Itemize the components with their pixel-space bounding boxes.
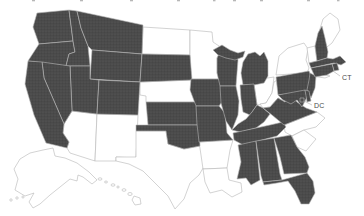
text-fragment (80, 0, 83, 1)
state-NM[interactable] (95, 114, 138, 161)
state-NE[interactable] (140, 80, 197, 102)
state-DC[interactable] (300, 98, 304, 102)
cropped-text-fragments (32, 0, 340, 1)
hi-island[interactable] (98, 178, 102, 180)
state-AR[interactable] (199, 140, 233, 169)
state-AZ[interactable] (63, 111, 97, 161)
text-fragment (130, 0, 133, 1)
state-MS[interactable] (237, 141, 260, 185)
hi-island[interactable] (105, 181, 108, 183)
text-fragment (307, 0, 310, 1)
hi-island[interactable] (128, 193, 132, 196)
state-MI-lower-peninsula[interactable] (241, 52, 268, 85)
state-WA[interactable] (33, 10, 73, 44)
state-CO[interactable] (97, 80, 140, 115)
state-NY-main[interactable] (276, 43, 309, 75)
hi-island[interactable] (117, 186, 119, 188)
state-KS[interactable] (146, 102, 199, 125)
state-LA[interactable] (203, 168, 242, 197)
ct-label: CT (342, 74, 352, 81)
hi-island[interactable] (122, 189, 126, 192)
state-HI[interactable] (98, 178, 141, 205)
states-group (10, 10, 346, 209)
text-fragment (213, 0, 216, 1)
state-ND[interactable] (142, 27, 190, 55)
us-states-map-screenshot: CT DC (0, 0, 364, 216)
text-fragment (260, 0, 263, 1)
text-fragment (337, 0, 340, 1)
state-IA[interactable] (190, 79, 224, 106)
hi-island[interactable] (111, 184, 115, 186)
text-fragment (233, 0, 236, 1)
text-fragment (177, 0, 180, 1)
dc-label: DC (314, 102, 325, 109)
us-map-svg: CT DC (0, 0, 364, 216)
ak-aleutian-island[interactable] (22, 196, 24, 198)
ak-aleutian-island[interactable] (16, 197, 18, 199)
ak-aleutian-island[interactable] (10, 199, 12, 201)
state-WY[interactable] (90, 50, 142, 82)
ct-leader-line (333, 71, 340, 76)
state-SD[interactable] (140, 54, 192, 82)
text-fragment (32, 0, 35, 1)
hi-big-island[interactable] (132, 196, 141, 205)
